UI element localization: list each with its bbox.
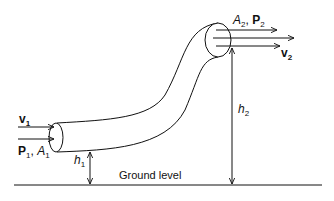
ground-level-label: Ground level (119, 169, 181, 181)
h2-label: h2 (238, 102, 250, 118)
outlet-area-pressure-label: A2, P2 (232, 13, 265, 29)
outlet-cross-section (205, 23, 231, 57)
pipe-top-edge (57, 23, 218, 123)
inlet-pressure-area-label: P1, A1 (18, 144, 50, 160)
pipe-bottom-edge (57, 57, 218, 152)
outlet-velocity-label: v2 (281, 46, 293, 62)
h1-label: h1 (74, 153, 86, 169)
inlet-velocity-label: v1 (19, 112, 31, 128)
bernoulli-diagram: v1 P1, A1 A2, P2 v2 h1 h2 Ground level (0, 0, 334, 201)
